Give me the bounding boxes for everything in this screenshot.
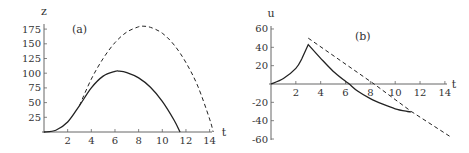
y-tick-label: 20 — [255, 60, 268, 71]
panel-label: (b) — [355, 30, 371, 43]
y-tick-label: 175 — [22, 24, 41, 35]
x-tick-label: 14 — [203, 135, 216, 146]
x-tick-label: 6 — [112, 135, 118, 146]
y-tick-label: -60 — [252, 134, 268, 145]
x-tick-label: 6 — [342, 87, 348, 98]
y-tick-label: 75 — [28, 82, 41, 93]
y-tick-label: 150 — [22, 38, 41, 49]
chart-panel-a: 2468101214255075100125150175zt(a) — [22, 5, 227, 146]
x-tick-label: 12 — [414, 87, 427, 98]
x-axis-label: t — [222, 126, 227, 139]
y-tick-label: 40 — [255, 42, 268, 53]
x-tick-label: 12 — [180, 135, 193, 146]
x-tick-label: 4 — [317, 87, 323, 98]
y-axis-label: z — [41, 5, 47, 18]
x-tick-label: 10 — [156, 135, 169, 146]
x-axis-label: t — [452, 78, 457, 91]
y-tick-label: 60 — [255, 23, 268, 34]
y-tick-label: 100 — [22, 68, 41, 79]
y-tick-label: 50 — [28, 97, 41, 108]
x-tick-label: 4 — [88, 135, 94, 146]
series-dashed — [308, 38, 451, 137]
x-tick-label: 2 — [293, 87, 299, 98]
x-tick-label: 8 — [367, 87, 373, 98]
series-solid — [44, 71, 180, 132]
y-tick-label: 25 — [28, 112, 41, 123]
x-tick-label: 14 — [439, 87, 452, 98]
y-tick-label: 125 — [22, 53, 41, 64]
x-tick-label: 8 — [135, 135, 141, 146]
y-axis-label: u — [267, 7, 274, 20]
y-tick-label: -40 — [252, 115, 268, 126]
y-tick-label: -20 — [252, 97, 268, 108]
x-tick-label: 2 — [64, 135, 70, 146]
series-solid — [271, 45, 411, 112]
chart-panel-b: 2468101214604020-20-40-60ut(b) — [252, 7, 457, 145]
panel-label: (a) — [72, 23, 87, 36]
charts: 2468101214255075100125150175zt(a)2468101… — [0, 0, 469, 153]
